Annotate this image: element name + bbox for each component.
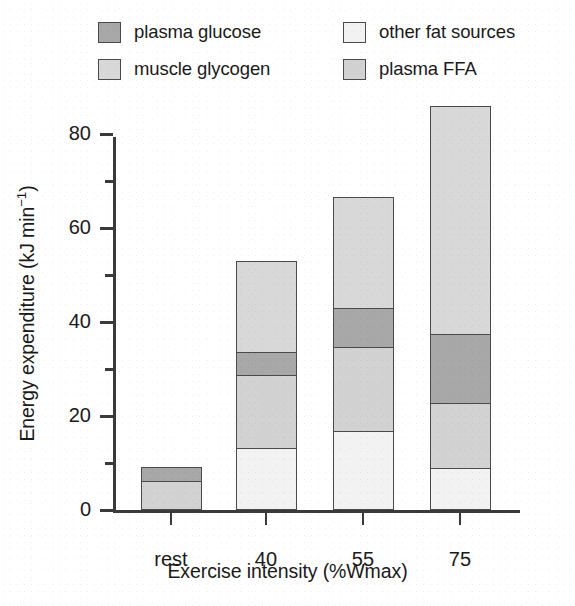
y-axis-line xyxy=(113,137,116,513)
legend-swatch-muscle-glycogen xyxy=(98,59,121,80)
y-tick-major: 40 xyxy=(100,321,113,323)
y-tick-minor xyxy=(105,368,113,370)
bar-40 xyxy=(236,263,297,510)
x-axis-title: Exercise intensity (%Wmax) xyxy=(0,560,575,583)
bar-segment-plasma-FFA xyxy=(236,374,297,449)
legend-item-plasma-glucose: plasma glucose xyxy=(98,22,261,43)
bar-segment-other-fat-sources xyxy=(430,467,491,510)
legend-item-muscle-glycogen: muscle glycogen xyxy=(98,59,270,80)
bar-segment-plasma-glucose xyxy=(141,467,202,482)
y-axis-title-exponent: −1 xyxy=(14,192,29,207)
y-tick-minor xyxy=(105,274,113,276)
legend-label-other-fat-sources: other fat sources xyxy=(379,23,515,42)
bar-55 xyxy=(333,199,394,511)
x-tick: 55 xyxy=(362,513,364,525)
legend-label-plasma-glucose: plasma glucose xyxy=(134,23,261,42)
bar-segment-plasma-glucose xyxy=(236,351,297,376)
chart-figure: plasma glucose muscle glycogen other fat… xyxy=(0,0,575,606)
y-tick-label: 40 xyxy=(69,311,91,331)
legend-swatch-plasma-glucose xyxy=(98,22,121,43)
plot-area: 020406080 rest405575 xyxy=(113,114,520,513)
bar-segment-other-fat-sources xyxy=(236,447,297,510)
y-tick-major: 20 xyxy=(100,415,113,417)
bar-segment-plasma-glucose xyxy=(430,333,491,404)
y-tick-label: 20 xyxy=(69,405,91,425)
bar-segment-plasma-FFA xyxy=(141,480,202,510)
bar-rest xyxy=(141,469,202,510)
bar-segment-plasma-glucose xyxy=(333,307,394,348)
y-tick-major: 80 xyxy=(100,133,113,135)
y-tick-major: 0 xyxy=(100,509,113,511)
y-tick-label: 60 xyxy=(69,217,91,237)
x-tick: 75 xyxy=(459,513,461,525)
bar-segment-muscle-glycogen xyxy=(236,261,297,352)
y-tick-minor xyxy=(105,462,113,464)
legend-label-muscle-glycogen: muscle glycogen xyxy=(134,60,270,79)
y-tick-label: 80 xyxy=(69,123,91,143)
y-axis-title-tail: ) xyxy=(16,185,38,191)
bar-75 xyxy=(430,108,491,510)
bar-segment-plasma-FFA xyxy=(430,402,491,469)
legend-item-other-fat-sources: other fat sources xyxy=(343,22,515,43)
bar-segment-muscle-glycogen xyxy=(333,197,394,309)
bar-segment-muscle-glycogen xyxy=(430,106,491,335)
y-tick-label: 0 xyxy=(80,499,91,519)
x-tick: rest xyxy=(170,513,172,525)
chart-legend: plasma glucose muscle glycogen other fat… xyxy=(98,22,518,92)
y-axis-title: Energy expenditure (kJ min−1) xyxy=(14,114,54,513)
x-tick: 40 xyxy=(265,513,267,525)
legend-label-plasma-ffa: plasma FFA xyxy=(379,60,477,79)
y-tick-major: 60 xyxy=(100,227,113,229)
y-tick-minor xyxy=(105,180,113,182)
legend-swatch-plasma-ffa xyxy=(343,59,366,80)
legend-swatch-other-fat-sources xyxy=(343,22,366,43)
y-axis-title-text: Energy expenditure (kJ min xyxy=(16,207,38,442)
bar-segment-plasma-FFA xyxy=(333,346,394,432)
legend-item-plasma-ffa: plasma FFA xyxy=(343,59,477,80)
bar-segment-other-fat-sources xyxy=(333,430,394,510)
